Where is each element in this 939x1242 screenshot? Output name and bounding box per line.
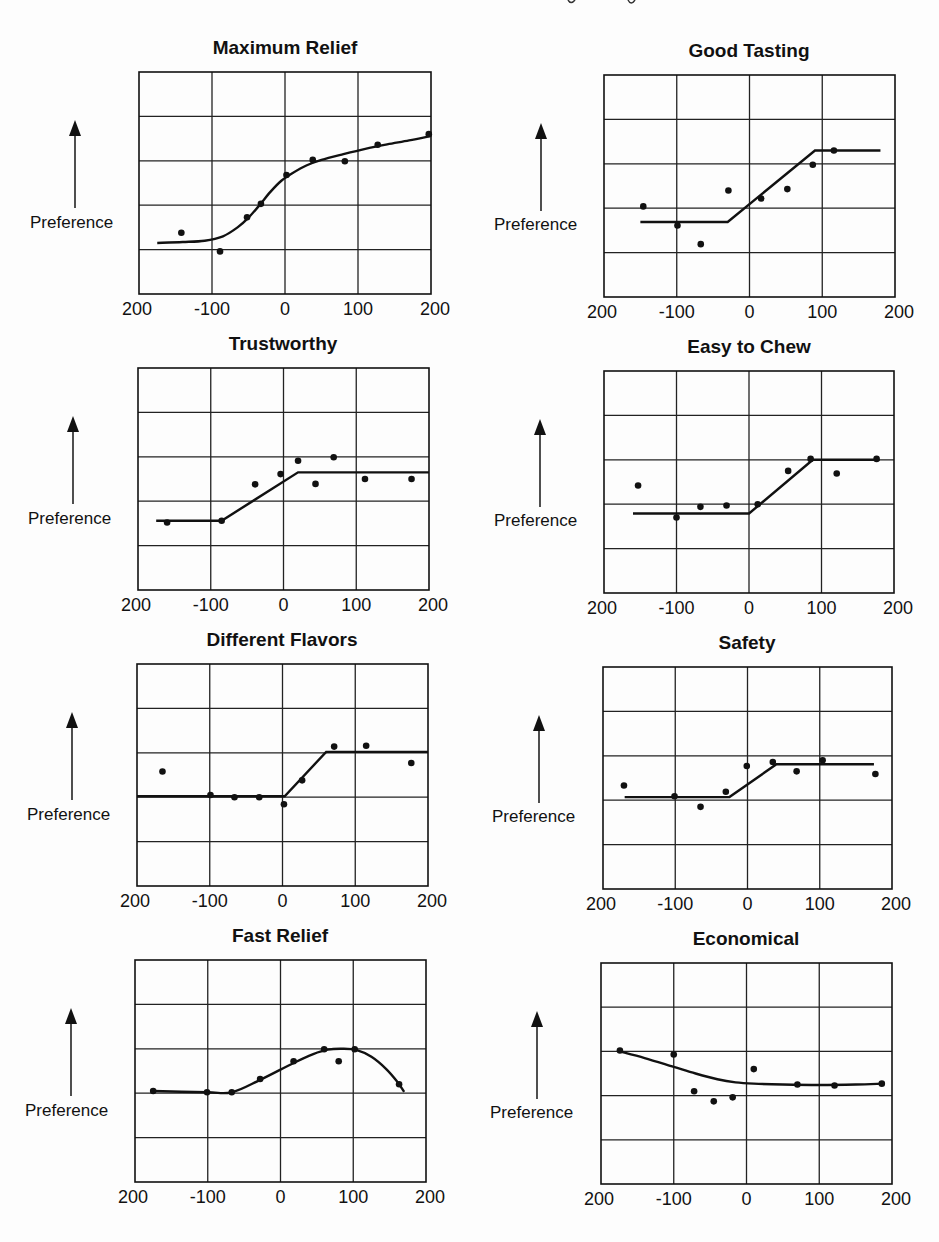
data-point	[617, 1047, 624, 1054]
plot-area-economical	[0, 0, 939, 1242]
data-point	[710, 1098, 717, 1105]
x-tick-label: 200	[584, 1189, 614, 1210]
figure-canvas: Maximum ReliefPreference200-1000100200Go…	[0, 0, 939, 1242]
data-point	[670, 1051, 677, 1058]
data-point	[729, 1094, 736, 1101]
data-point	[750, 1066, 757, 1073]
grid-lines	[601, 963, 892, 1184]
x-tick-label: 100	[804, 1189, 834, 1210]
data-point	[831, 1082, 838, 1089]
x-tick-label: -100	[656, 1189, 692, 1210]
data-point	[879, 1080, 886, 1087]
data-point	[794, 1081, 801, 1088]
x-tick-label: 0	[741, 1189, 751, 1210]
x-tick-label: 200	[881, 1189, 911, 1210]
data-point	[691, 1088, 698, 1095]
